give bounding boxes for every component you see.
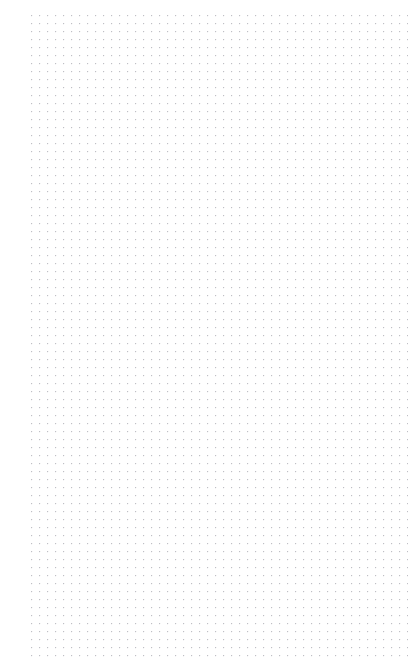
dot-grid-field-overlay [31,15,408,663]
dot-grid-page [0,0,412,672]
